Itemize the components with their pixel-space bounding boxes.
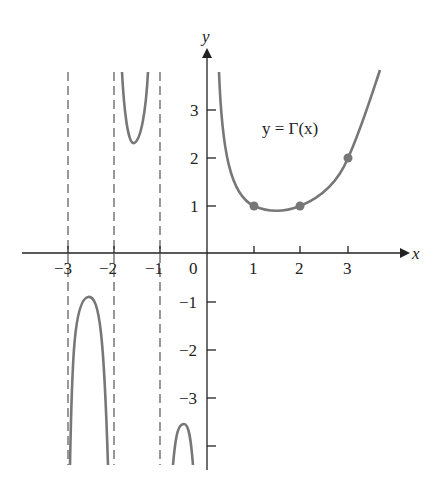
svg-text:−2: −2 — [99, 259, 117, 278]
x-axis-label: x — [411, 244, 420, 263]
svg-text:−3: −3 — [179, 389, 197, 408]
gamma-branch-minus1-0 — [173, 424, 193, 465]
y-axis-arrow-icon — [202, 48, 212, 58]
highlighted-points — [250, 154, 353, 211]
y-tick-labels: 3 2 1 −1 −2 −3 — [179, 101, 199, 408]
svg-text:−1: −1 — [145, 259, 163, 278]
svg-text:1: 1 — [249, 259, 258, 278]
y-axis-label: y — [200, 27, 210, 46]
svg-text:1: 1 — [190, 197, 199, 216]
svg-text:0: 0 — [189, 259, 198, 278]
svg-text:−1: −1 — [179, 293, 197, 312]
svg-text:3: 3 — [190, 101, 199, 120]
x-tick-labels: −3 −2 −1 0 1 2 3 — [54, 259, 352, 278]
gamma-branch-minus2-minus1 — [122, 72, 148, 143]
svg-text:2: 2 — [295, 259, 304, 278]
svg-text:−3: −3 — [54, 259, 72, 278]
chart-canvas: y x y = Γ(x) −3 −2 −1 0 1 2 3 3 2 1 −1 −… — [0, 0, 437, 480]
svg-text:3: 3 — [343, 259, 352, 278]
gamma-branch-positive — [219, 70, 380, 211]
x-axis-arrow-icon — [400, 248, 410, 258]
svg-text:−2: −2 — [179, 341, 197, 360]
gamma-branch-minus3-minus2 — [70, 297, 108, 465]
svg-text:2: 2 — [190, 149, 199, 168]
gamma-function-chart: y x y = Γ(x) −3 −2 −1 0 1 2 3 3 2 1 −1 −… — [0, 0, 437, 480]
equation-label: y = Γ(x) — [262, 119, 318, 138]
